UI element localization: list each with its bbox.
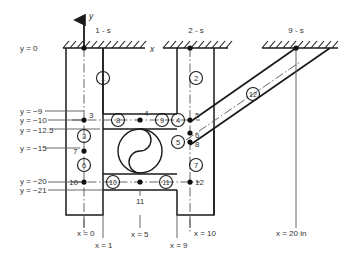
y-label-m10: y = −10 [20, 116, 47, 125]
y-label-m12-5: y = −12.5 [20, 126, 54, 135]
element-label-6: 6 [82, 161, 86, 170]
node-dot-10 [81, 179, 86, 184]
brace-lower-edge [190, 48, 330, 145]
node-dot-3 [81, 117, 86, 122]
node-dot-2s [187, 45, 192, 50]
node-dot-1s [81, 45, 86, 50]
hatch-2s [163, 41, 232, 48]
x-label-5: x = 5 [131, 230, 149, 239]
y-label-0: y = 0 [20, 44, 38, 53]
y-label-m20: y = −20 [20, 177, 47, 186]
element-label-9: 9 [160, 116, 164, 125]
element-circles [78, 72, 260, 189]
node-label-6: 6 [195, 131, 200, 140]
node-dot-9s [293, 45, 298, 50]
y-leader-lines [45, 48, 103, 190]
node-dot-7 [81, 148, 86, 153]
element-label-8: 8 [116, 116, 120, 125]
x-label-0: x = 0 [77, 229, 95, 238]
element-label-5: 5 [176, 138, 180, 147]
node-label-5: 5 [195, 111, 200, 120]
node-dot-11 [137, 179, 142, 184]
node-label-3: 3 [89, 111, 94, 120]
node-label-10: 10 [69, 178, 78, 187]
y-label-m21: y = −21 [20, 186, 47, 195]
node-label-12: 12 [195, 178, 204, 187]
element-label-7: 7 [194, 161, 198, 170]
support-label-2s: 2 - s [188, 26, 204, 35]
support-label-9s: 9 - s [288, 26, 304, 35]
y-label-m9: y = −9 [20, 107, 43, 116]
element-label-10: 10 [109, 179, 117, 186]
x-label-10: x = 10 [194, 229, 217, 238]
element-label-4: 4 [176, 116, 180, 125]
node-dot-8 [187, 139, 192, 144]
y-label-m15: y = −15 [20, 144, 47, 153]
hatch-1s [63, 41, 146, 48]
taiji-s-curve [129, 129, 151, 173]
x-label-9: x = 9 [170, 241, 188, 250]
diagonal-brace [190, 48, 330, 215]
taiji-symbol [118, 129, 162, 173]
x-label-20: x = 20 in [276, 229, 306, 238]
node-dot-5 [187, 117, 192, 122]
support-group-2s [163, 41, 232, 48]
node-dot-12 [187, 179, 192, 184]
element-label-1: 1 [101, 74, 105, 83]
hatch-9s [262, 41, 338, 48]
x-axis-label: x [149, 44, 155, 54]
support-group-1s [63, 41, 146, 48]
node-dot-4 [137, 117, 142, 122]
node-label-11: 11 [136, 197, 145, 206]
brace-upper-edge [190, 48, 296, 122]
element-label-11: 11 [162, 179, 169, 186]
node-label-4: 4 [144, 109, 149, 118]
frame-mesh-svg: y x 1 - s 2 - s 9 - s y = 0 y = −9 y = −… [0, 0, 349, 258]
x-label-1: x = 1 [95, 241, 113, 250]
node-label-8: 8 [195, 140, 200, 149]
element-label-3: 3 [82, 132, 86, 141]
support-label-1s: 1 - s [95, 26, 111, 35]
support-group-9s [262, 41, 338, 48]
node-label-7: 7 [73, 147, 78, 156]
y-axis-label: y [88, 11, 94, 21]
element-label-2: 2 [194, 74, 198, 83]
centerlines [72, 48, 300, 232]
element-label-12: 12 [249, 91, 257, 98]
centerline-brace [186, 62, 300, 140]
diagram-canvas: y x 1 - s 2 - s 9 - s y = 0 y = −9 y = −… [0, 0, 349, 258]
node-dot-6 [187, 130, 192, 135]
